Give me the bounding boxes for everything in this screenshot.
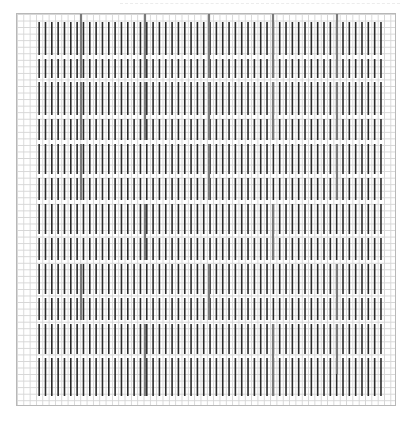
stitch-chart-grid: [16, 13, 396, 406]
canvas: [0, 0, 413, 427]
top-dashed-rule: [120, 3, 400, 4]
stitch-pattern: [17, 14, 396, 406]
